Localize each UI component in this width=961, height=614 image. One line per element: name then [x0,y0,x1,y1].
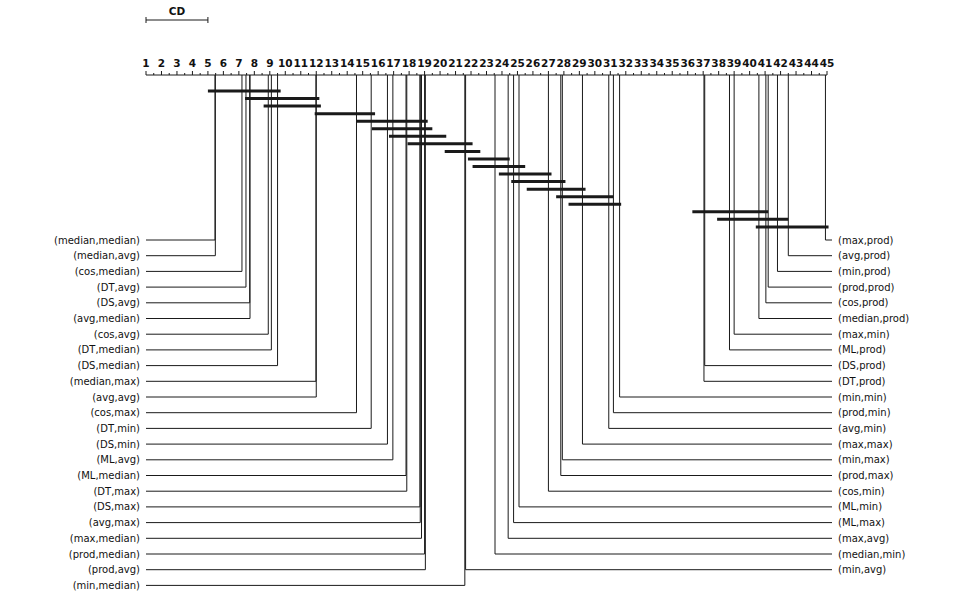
tick-label: 22 [464,57,479,69]
rank-connector [146,75,425,554]
rank-connector [562,75,832,460]
rank-connector [613,75,832,413]
method-label: (DS,max) [93,501,140,512]
tick-label: 21 [448,57,463,69]
tick-label: 30 [588,57,603,69]
rank-connector [766,75,832,303]
method-label: (ML,min) [838,501,882,512]
method-label: (DS,avg) [97,297,141,308]
tick-label: 15 [355,57,370,69]
tick-label: 37 [696,57,711,69]
rank-connector [146,75,387,444]
rank-connector [146,75,250,303]
tick-label: 3 [173,57,180,69]
rank-connector [495,75,832,554]
left-methods: (median,median)(median,avg)(cos,median)(… [54,75,465,591]
tick-label: 45 [820,57,835,69]
tick-label: 29 [572,57,587,69]
tick-label: 1 [142,57,149,69]
method-label: (cos,min) [838,486,885,497]
tick-label: 25 [510,57,525,69]
method-label: (prod,max) [838,470,894,481]
rank-connector [146,75,242,271]
method-label: (avg,min) [838,423,886,434]
rank-connector [146,75,371,428]
method-label: (min,max) [838,454,890,465]
method-label: (median,prod) [838,313,909,324]
method-label: (DT,max) [93,486,140,497]
tick-label: 38 [711,57,726,69]
rank-connector [146,75,215,240]
method-label: (ML,prod) [838,344,886,355]
method-label: (ML,avg) [96,454,140,465]
method-label: (prod,median) [69,549,140,560]
method-label: (DT,avg) [97,282,140,293]
method-label: (DS,median) [77,360,140,371]
rank-connector [508,75,832,538]
method-label: (min,median) [73,580,140,591]
tick-label: 41 [758,57,773,69]
tick-label: 26 [526,57,541,69]
tick-label: 19 [417,57,432,69]
method-label: (cos,avg) [94,329,140,340]
tick-label: 12 [309,57,324,69]
rank-connector [146,75,215,256]
rank-connector [561,75,832,476]
tick-label: 7 [235,57,242,69]
rank-connector [146,75,278,366]
tick-label: 43 [789,57,804,69]
method-label: (median,avg) [73,250,140,261]
rank-connector [146,75,271,350]
tick-label: 28 [557,57,572,69]
rank-connector [734,75,832,334]
method-label: (avg,prod) [838,250,890,261]
tick-label: 11 [293,57,308,69]
method-label: (median,median) [54,235,140,246]
tick-label: 18 [402,57,417,69]
method-label: (avg,median) [73,313,140,324]
tick-label: 5 [204,57,211,69]
rank-axis: 1234567891011121314151617181920212223242… [142,57,834,75]
tick-label: 6 [220,57,227,69]
method-label: (max,avg) [838,533,889,544]
rank-connector [146,75,356,413]
cd-bar: CD [146,5,208,23]
method-label: (min,min) [838,392,887,403]
method-label: (avg,avg) [92,392,140,403]
method-label: (DT,min) [96,423,140,434]
rank-connector [146,75,421,538]
tick-label: 42 [773,57,788,69]
cd-diagram: CD 1234567891011121314151617181920212223… [0,0,961,614]
rank-connector [146,75,465,585]
method-label: (prod,min) [838,407,891,418]
tick-label: 32 [618,57,633,69]
tick-label: 8 [251,57,258,69]
method-label: (median,max) [70,376,140,387]
cd-label: CD [169,5,186,17]
tick-label: 4 [189,57,196,69]
rank-connector [146,75,316,397]
rank-connector [519,75,832,507]
rank-connector [825,75,832,240]
tick-label: 9 [266,57,273,69]
method-label: (max,median) [70,533,140,544]
rank-connector [777,75,832,271]
tick-label: 16 [371,57,386,69]
method-label: (avg,max) [89,517,140,528]
method-label: (cos,median) [75,266,140,277]
method-label: (max,prod) [838,235,894,246]
method-label: (min,avg) [838,564,886,575]
rank-connector [146,75,420,523]
method-label: (median,min) [838,549,905,560]
rank-connector [146,75,420,507]
tick-label: 17 [386,57,401,69]
rank-connector [609,75,832,428]
method-label: (DS,prod) [838,360,886,371]
rank-connector [146,75,393,460]
rank-connector [146,75,250,319]
method-label: (DT,prod) [838,376,886,387]
tick-label: 10 [278,57,293,69]
tick-label: 13 [324,57,339,69]
method-label: (min,prod) [838,266,891,277]
tick-label: 2 [158,57,165,69]
